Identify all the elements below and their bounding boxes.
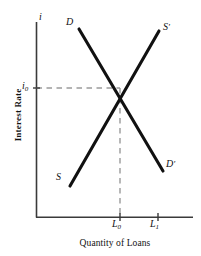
supply-curve [70, 31, 159, 186]
x-tick-label-L1: L1 [150, 219, 159, 231]
demand-curve-prime-label: D′ [166, 159, 175, 169]
plot-canvas [0, 0, 201, 256]
supply-demand-figure: i i0 D S′ S D′ L0 L1 Interest Rate Quant… [0, 0, 201, 256]
y-axis-symbol-label: i [39, 12, 42, 22]
x-tick-label-L0: L0 [112, 219, 121, 231]
L1-subscript: 1 [156, 223, 160, 231]
d-prime-mark: ′ [173, 159, 175, 169]
tick-marks [33, 88, 158, 221]
y-axis-title: Interest Rate [13, 75, 23, 155]
supply-curve-prime-label: S′ [163, 22, 170, 32]
L0-subscript: 0 [118, 223, 122, 231]
equilibrium-guides [37, 88, 121, 214]
axes-group [36, 22, 193, 218]
i0-subscript: 0 [25, 85, 29, 93]
x-axis-title: Quantity of Loans [36, 238, 194, 248]
demand-curve-label: D [66, 17, 73, 27]
s-prime-mark: ′ [168, 22, 170, 32]
supply-curve-label: S [56, 172, 61, 182]
